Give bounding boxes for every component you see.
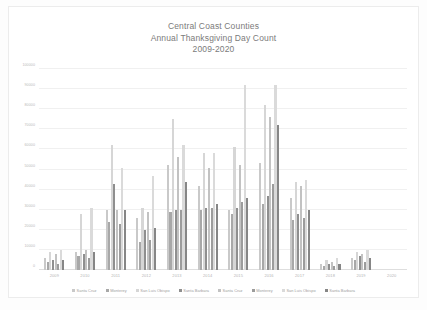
bar-group xyxy=(315,69,346,270)
legend-item[interactable]: Monterey xyxy=(106,288,127,293)
legend-item[interactable]: Monterey xyxy=(252,288,273,293)
bar-group xyxy=(223,69,254,270)
legend-swatch-icon xyxy=(282,289,285,292)
legend-swatch-icon xyxy=(106,289,109,292)
legend-label: Santa Cruz xyxy=(77,288,97,293)
bar xyxy=(246,198,248,270)
bar xyxy=(369,258,371,270)
y-axis-tick-label: 50000 xyxy=(25,164,36,168)
legend-label: Santa Cruz xyxy=(223,288,243,293)
plot-area: 0100002000030000400005000060000700008000… xyxy=(39,69,407,270)
x-axis-tick-label: 2019 xyxy=(346,273,377,278)
legend-item[interactable]: San Luis Obispo xyxy=(282,288,316,293)
x-axis-tick-label: 2011 xyxy=(100,273,131,278)
y-axis-tick-label: 40000 xyxy=(25,184,36,188)
bar xyxy=(308,210,310,270)
legend-label: San Luis Obispo xyxy=(140,288,169,293)
legend-swatch-icon xyxy=(252,289,255,292)
y-axis-tick-label: 90000 xyxy=(25,83,36,87)
bar-group xyxy=(162,69,193,270)
y-axis-tick-label: 30000 xyxy=(25,204,36,208)
y-axis-tick-label: 60000 xyxy=(25,143,36,147)
bar-group xyxy=(100,69,131,270)
legend-swatch-icon xyxy=(179,289,182,292)
chart-card: Central Coast Counties Annual Thanksgivi… xyxy=(8,6,419,298)
y-axis-tick-label: 20000 xyxy=(25,224,36,228)
bar-group xyxy=(284,69,315,270)
x-axis-labels: 2009201020112012201320142015201620172018… xyxy=(39,273,407,278)
bar-group xyxy=(39,69,70,270)
legend-swatch-icon xyxy=(218,289,221,292)
legend-label: Monterey xyxy=(110,288,127,293)
legend-item[interactable]: San Luis Obispo xyxy=(136,288,170,293)
legend-item[interactable]: Santa Cruz xyxy=(218,288,243,293)
y-axis-tick-label: 70000 xyxy=(25,123,36,127)
bar xyxy=(124,210,126,270)
x-axis-tick-label: 2012 xyxy=(131,273,162,278)
chart-title-line-2: Annual Thanksgiving Day Count xyxy=(9,33,418,45)
legend-label: Santa Barbara xyxy=(183,288,209,293)
bar xyxy=(277,125,279,270)
y-axis-tick-label: 10000 xyxy=(25,244,36,248)
bar xyxy=(62,260,64,270)
bar xyxy=(93,252,95,270)
chart-legend: Santa CruzMontereySan Luis ObispoSanta B… xyxy=(9,288,418,293)
bar xyxy=(338,264,340,270)
chart-title: Central Coast Counties Annual Thanksgivi… xyxy=(9,21,418,56)
legend-swatch-icon xyxy=(72,289,75,292)
x-axis-tick-label: 2014 xyxy=(192,273,223,278)
x-axis-tick-label: 2020 xyxy=(376,273,407,278)
x-axis-tick-label: 2013 xyxy=(162,273,193,278)
bar-group xyxy=(70,69,101,270)
legend-label: Monterey xyxy=(256,288,273,293)
screenshot-frame: Central Coast Counties Annual Thanksgivi… xyxy=(0,0,427,310)
legend-label: San Luis Obispo xyxy=(286,288,315,293)
legend-item[interactable]: Santa Barbara xyxy=(325,288,355,293)
bar-group xyxy=(254,69,285,270)
chart-title-line-3: 2009-2020 xyxy=(9,44,418,56)
legend-item[interactable]: Santa Cruz xyxy=(72,288,97,293)
x-axis-tick-label: 2018 xyxy=(315,273,346,278)
legend-label: Santa Barbara xyxy=(329,288,355,293)
x-axis-tick-label: 2010 xyxy=(70,273,101,278)
bar xyxy=(216,204,218,270)
bar-group xyxy=(376,69,407,270)
bar-groups xyxy=(39,69,407,270)
legend-item[interactable]: Santa Barbara xyxy=(179,288,209,293)
x-axis-tick-label: 2015 xyxy=(223,273,254,278)
bar-group xyxy=(192,69,223,270)
y-axis-tick-label: 0 xyxy=(33,264,35,268)
y-axis-tick-label: 80000 xyxy=(25,103,36,107)
chart-title-line-1: Central Coast Counties xyxy=(9,21,418,33)
legend-swatch-icon xyxy=(136,289,139,292)
x-axis-tick-label: 2016 xyxy=(254,273,285,278)
bar xyxy=(185,182,187,270)
bar-group xyxy=(131,69,162,270)
y-axis-tick-label: 100000 xyxy=(22,63,35,67)
bar xyxy=(154,228,156,270)
x-axis-tick-label: 2017 xyxy=(284,273,315,278)
legend-swatch-icon xyxy=(325,289,328,292)
x-axis-tick-label: 2009 xyxy=(39,273,70,278)
bar-group xyxy=(346,69,377,270)
